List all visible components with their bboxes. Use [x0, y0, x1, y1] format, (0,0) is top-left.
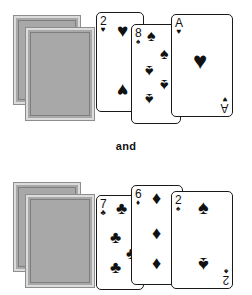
card-back-frame	[30, 199, 90, 283]
bottom-hand-facedown-stack	[14, 183, 98, 289]
spades-icon: ♠	[176, 205, 180, 212]
hearts-icon: ♥	[101, 26, 106, 33]
bottom-hand-row: 7 ♣ ♣ ♣ ♣ ♣ 6 ♦ ♦ ♦ ♦ 6 ♦ 2	[0, 155, 252, 295]
hearts-icon: ♥	[176, 28, 181, 35]
diamonds-icon: ♦	[152, 224, 161, 242]
diamonds-icon: ♦	[152, 254, 161, 272]
card-index-top-left: 7 ♣	[100, 198, 106, 216]
clubs-icon: ♣	[100, 209, 105, 216]
spades-icon: ♠	[224, 268, 228, 275]
spades-icon: ♠	[198, 197, 209, 217]
spades-icon: ♠	[160, 46, 169, 62]
card-back	[26, 195, 94, 287]
card-index-top-left: 8 ♠	[135, 27, 141, 45]
clubs-icon: ♣	[110, 229, 121, 246]
card-index-top-left: 6 ♦	[135, 188, 141, 206]
conjunction-label: and	[0, 140, 252, 152]
hearts-icon: ♥	[117, 81, 128, 100]
card-index-top-left: 2 ♠	[175, 194, 181, 212]
card-index-top-left: 2 ♥	[100, 15, 106, 33]
spades-icon: ♠	[136, 38, 140, 45]
card-back-frame	[30, 32, 90, 116]
clubs-icon: ♣	[116, 200, 127, 217]
diamonds-icon: ♦	[136, 199, 140, 206]
top-hand-row: 2 ♥ ♥ ♥ 8 ♠ ♠ ♠ ♠ ♠ ♠ A ♥ ♥ A	[0, 0, 252, 140]
card-index-top-left: A ♥	[175, 17, 183, 35]
hearts-icon: ♥	[223, 96, 228, 103]
card-index-bottom-right: 2 ♠	[223, 268, 229, 286]
clubs-icon: ♣	[110, 259, 121, 276]
spades-icon: ♠	[147, 28, 156, 44]
card-2-of-spades: 2 ♠ ♠ ♠ 2 ♠	[171, 191, 233, 289]
card-ace-of-hearts: A ♥ ♥ A ♥	[171, 14, 233, 117]
card-index-bottom-right: A ♥	[221, 96, 229, 114]
spades-icon: ♠	[145, 63, 154, 79]
diamonds-icon: ♦	[152, 189, 161, 207]
hearts-icon: ♥	[117, 21, 128, 40]
spades-icon: ♠	[160, 77, 169, 93]
card-back	[26, 28, 94, 120]
spades-icon: ♠	[145, 91, 154, 107]
card-comparison-figure: 2 ♥ ♥ ♥ 8 ♠ ♠ ♠ ♠ ♠ ♠ A ♥ ♥ A	[0, 0, 252, 295]
top-hand-facedown-stack	[14, 16, 98, 122]
hearts-icon: ♥	[193, 49, 207, 73]
spades-icon: ♠	[198, 255, 209, 275]
